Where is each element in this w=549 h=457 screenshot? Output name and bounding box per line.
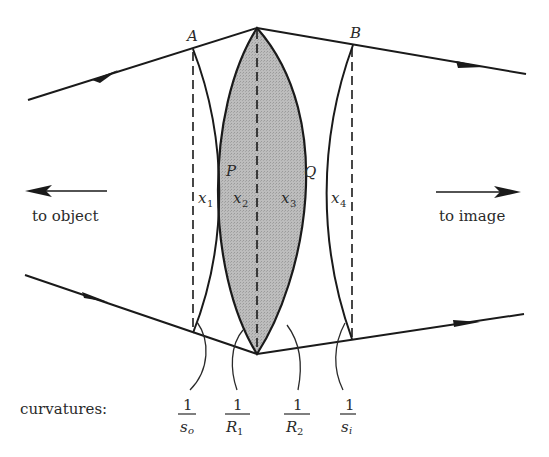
svg-text:1: 1 bbox=[345, 396, 355, 414]
curvature-fraction-r2: 1 R 2 bbox=[284, 396, 310, 437]
svg-text:1: 1 bbox=[207, 198, 213, 209]
label-point-q: Q bbox=[304, 163, 316, 181]
region-label-x1: x 1 bbox=[198, 189, 213, 209]
curvature-fraction-si: 1 s i bbox=[340, 396, 356, 436]
svg-text:s: s bbox=[180, 418, 188, 436]
arrow-icon-top-incoming bbox=[92, 70, 118, 83]
lens-body bbox=[218, 28, 306, 354]
svg-text:1: 1 bbox=[237, 426, 243, 437]
svg-text:s: s bbox=[341, 418, 349, 436]
ray-top-outgoing bbox=[257, 28, 526, 74]
label-point-a: A bbox=[185, 27, 198, 45]
svg-text:i: i bbox=[349, 425, 352, 436]
to-image-label: to image bbox=[439, 207, 505, 225]
svg-text:x: x bbox=[281, 189, 290, 207]
svg-text:1: 1 bbox=[293, 396, 303, 414]
label-point-p: P bbox=[225, 162, 237, 180]
label-point-b: B bbox=[349, 24, 361, 42]
arrow-icon-top-outgoing bbox=[456, 61, 484, 68]
to-object-label: to object bbox=[32, 207, 98, 225]
svg-text:1: 1 bbox=[183, 396, 193, 414]
curvature-fraction-so: 1 s o bbox=[178, 396, 196, 436]
ray-top-incoming bbox=[28, 28, 257, 100]
svg-text:2: 2 bbox=[242, 198, 248, 209]
ray-bottom-incoming bbox=[25, 275, 257, 354]
svg-text:x: x bbox=[331, 189, 340, 207]
lens-diagram: A B P Q x 1 x 2 x 3 x 4 to object to ima… bbox=[0, 0, 549, 457]
svg-text:x: x bbox=[198, 189, 207, 207]
ray-bottom-outgoing bbox=[257, 314, 524, 354]
leader-r1 bbox=[232, 330, 243, 390]
leader-si bbox=[336, 323, 345, 390]
svg-text:3: 3 bbox=[290, 198, 296, 209]
leader-r2 bbox=[287, 325, 300, 390]
curvatures-label: curvatures: bbox=[20, 400, 107, 418]
svg-text:x: x bbox=[233, 189, 242, 207]
curvature-fraction-r1: 1 R 1 bbox=[225, 396, 250, 437]
svg-text:2: 2 bbox=[297, 426, 303, 437]
svg-text:R: R bbox=[285, 418, 297, 436]
svg-text:o: o bbox=[188, 425, 194, 436]
svg-text:R: R bbox=[225, 418, 237, 436]
region-label-x4: x 4 bbox=[331, 189, 346, 209]
svg-text:4: 4 bbox=[340, 198, 346, 209]
svg-text:1: 1 bbox=[233, 396, 243, 414]
arrow-icon-bottom-incoming bbox=[82, 292, 108, 302]
